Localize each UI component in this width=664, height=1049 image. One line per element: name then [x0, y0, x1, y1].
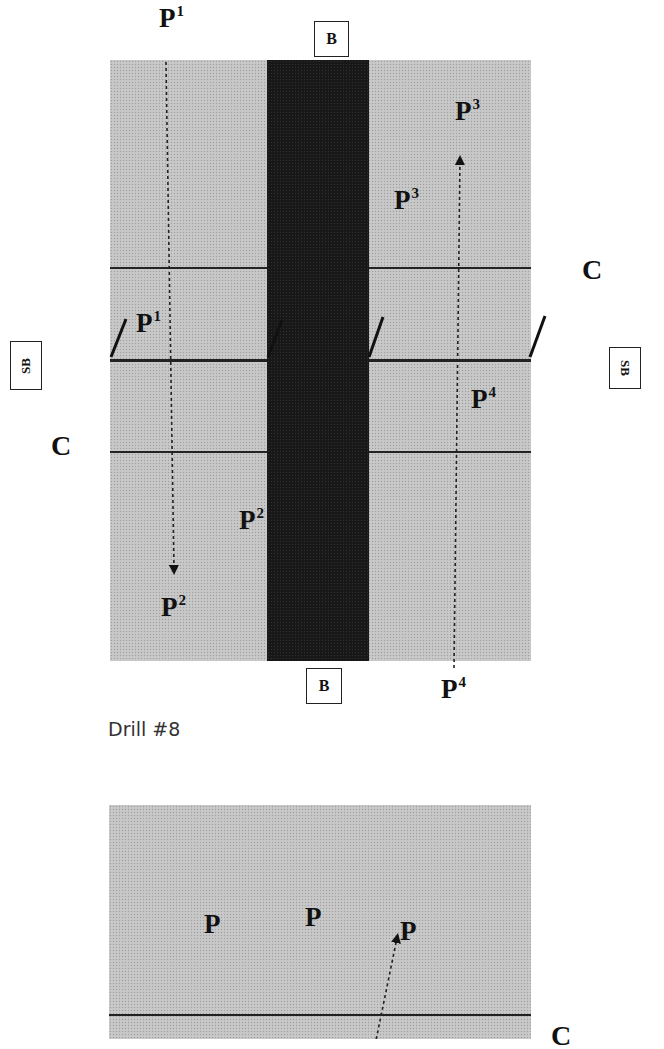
player-p-c: P	[400, 918, 417, 945]
pass-path-arrow	[375, 938, 397, 1039]
player-p-b: P	[305, 904, 322, 931]
player-p-a: P	[204, 911, 221, 938]
court-label-right: C	[551, 1022, 571, 1049]
